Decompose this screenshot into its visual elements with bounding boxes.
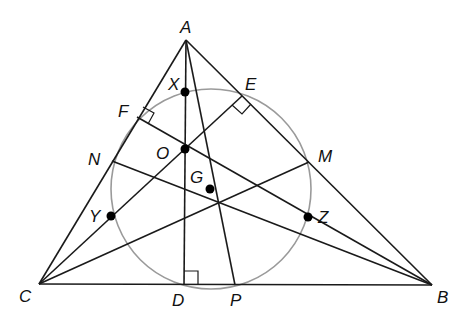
point-z-dot — [304, 213, 313, 222]
label-n: N — [88, 150, 101, 169]
label-o: O — [156, 144, 169, 163]
median-bn — [112, 161, 432, 285]
label-f: F — [118, 102, 130, 121]
point-y-dot — [107, 212, 116, 221]
median-cm — [39, 162, 309, 284]
point-o-dot — [181, 145, 190, 154]
label-y: Y — [89, 207, 102, 226]
label-d: D — [172, 291, 184, 310]
label-g: G — [190, 168, 203, 187]
median-ap — [186, 40, 235, 285]
altitude-ad — [184, 40, 186, 285]
label-e: E — [245, 75, 257, 94]
point-g-dot — [206, 185, 215, 194]
label-c: C — [19, 287, 32, 306]
geometry-diagram: A B C D E F M N P O G X Y Z — [0, 0, 466, 324]
label-m: M — [318, 147, 333, 166]
altitude-bf — [137, 117, 432, 285]
label-b: B — [437, 288, 448, 307]
label-a: A — [179, 18, 191, 37]
point-x-dot — [181, 88, 190, 97]
label-p: P — [230, 291, 242, 310]
right-angle-e — [232, 104, 251, 114]
right-angle-d — [184, 271, 198, 285]
label-x: X — [167, 75, 180, 94]
label-z: Z — [317, 208, 329, 227]
